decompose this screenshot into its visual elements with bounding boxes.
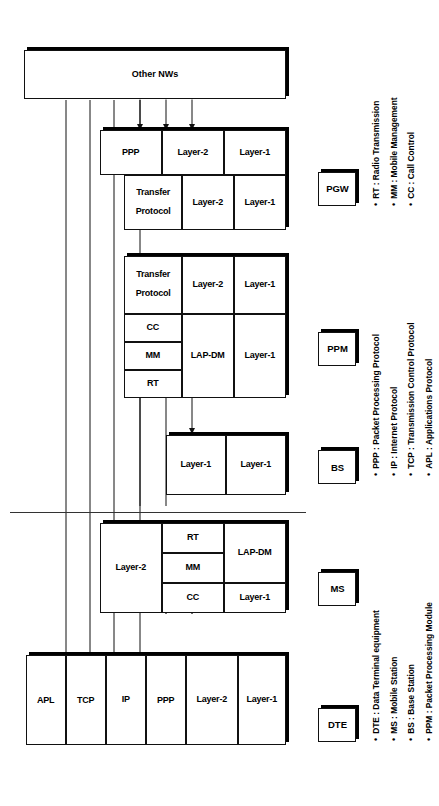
pgw-cell-ppp: PPP [100, 130, 162, 175]
ms-cell-layer2: Layer-2 [100, 523, 162, 613]
ppm-cell-layer1: Layer-1 [234, 256, 286, 314]
node-icon-ppm: PPM [318, 332, 356, 366]
ppm-cell-transfer-protocol: Transfer Protocol [124, 256, 182, 314]
legend-item: APL : Applications Protocol [425, 322, 434, 476]
pgw-stack: PPP Layer-2 Layer-1 [100, 130, 286, 175]
other-nws-line2: NWs [158, 69, 178, 79]
bs-cell-layer1-a: Layer-1 [166, 435, 226, 495]
dte-cell-apl: APL [26, 655, 66, 745]
other-nws-line1: Other [132, 69, 156, 79]
bs-cell-layer1-b: Layer-1 [226, 435, 286, 495]
pgw-cell-layer2: Layer-2 [162, 130, 224, 175]
legend-item: MS : Mobile Station [390, 602, 399, 741]
node-icon-bs: BS [318, 450, 356, 484]
ms-cell-rt: RT [162, 523, 224, 553]
legend-item: PPP : Packet Processing Protocol [372, 322, 381, 476]
ppm-lower-stack: RT MM CC LAP-DM Layer-1 [124, 314, 286, 398]
pgw-inner-cell-layer1: Layer-1 [234, 175, 286, 230]
air-interface-divider [10, 512, 306, 513]
node-icon-dte: DTE [318, 708, 356, 742]
dte-cell-ip: IP [106, 655, 146, 745]
dte-cell-layer2: Layer-2 [186, 655, 238, 745]
ppm-cell-rt: RT [124, 370, 182, 398]
dte-cell-ppp: PPP [146, 655, 186, 745]
ms-stack: Layer-2 CC MM RT Layer-1 LAP-DM [100, 523, 286, 613]
pgw-transfer-line2: Protocol [136, 207, 171, 216]
other-nws-block: Other NWs [24, 50, 286, 99]
ppm-cell-mm: MM [124, 342, 182, 370]
legend-column-2: PPP : Packet Processing Protocol IP : In… [372, 322, 439, 476]
pgw-inner-cell-layer2: Layer-2 [182, 175, 234, 230]
ms-cell-cc: CC [162, 583, 224, 613]
legend-column-3: RT : Radio Transmission MM : Mobile Mana… [372, 97, 425, 206]
legend-item: BS : Base Station [407, 602, 416, 741]
dte-cell-tcp: TCP [66, 655, 106, 745]
node-icon-ms: MS [318, 572, 356, 606]
pgw-cell-layer1: Layer-1 [224, 130, 286, 175]
ms-cell-lapdm: LAP-DM [224, 523, 286, 583]
node-icon-pgw: PGW [318, 172, 356, 206]
pgw-inner-stack: Transfer Protocol Layer-2 Layer-1 [124, 175, 286, 230]
ppm-transfer-line2: Protocol [136, 290, 171, 299]
ppm-cell-lapdm: LAP-DM [182, 314, 234, 398]
bs-stack: Layer-1 Layer-1 [166, 435, 286, 495]
ppm-transfer-line1: Transfer [136, 271, 171, 280]
ppm-cell-layer1-bottom: Layer-1 [234, 314, 286, 398]
ms-cell-mm: MM [162, 553, 224, 583]
legend-column-1: DTE : Data Terminal equipment MS : Mobil… [372, 602, 439, 741]
ppm-cell-cc: CC [124, 314, 182, 342]
legend-item: CC : Call Control [407, 97, 416, 206]
legend-item: MM : Mobile Management [390, 97, 399, 206]
pgw-cell-transfer-protocol: Transfer Protocol [124, 175, 182, 230]
legend-item: IP : Internet Protocol [390, 322, 399, 476]
legend-item: PPM : Packet Processing Module [425, 602, 434, 741]
ppm-stack: Transfer Protocol Layer-2 Layer-1 [124, 256, 286, 314]
dte-stack: APL TCP IP PPP Layer-2 Layer-1 [26, 655, 286, 745]
ms-cell-layer1: Layer-1 [224, 583, 286, 613]
pgw-transfer-line1: Transfer [136, 188, 171, 197]
legend-item: RT : Radio Transmission [372, 97, 381, 206]
ppm-cell-layer2: Layer-2 [182, 256, 234, 314]
legend-item: TCP : Transmission Control Protocol [407, 322, 416, 476]
legend-item: DTE : Data Terminal equipment [372, 602, 381, 741]
dte-cell-layer1: Layer-1 [238, 655, 286, 745]
